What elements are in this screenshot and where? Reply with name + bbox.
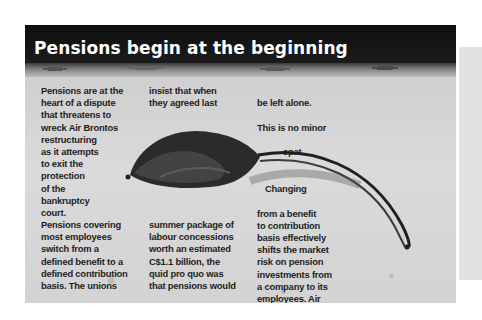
article-column-1-bottom: Pensions covering most employees switch … [41,219,145,292]
column-3-line: be left alone. [257,97,367,109]
article-column-3-bottom: Changing from a benefit to contribution … [257,171,367,303]
article-column-3-top: be left alone. This is no minor spat. [257,85,367,170]
article-title: Pensions begin at the beginning [34,38,348,58]
article-graphic: Pensions begin at the beginning Pensions… [25,25,456,303]
article-column-2-bottom: summer package of labour concessions wor… [149,219,253,292]
article-column-2-top: insist that when they agreed last [149,85,253,109]
paragraph-lead: Changing [257,183,367,195]
paragraph-body: from a benefit to contribution basis eff… [257,208,367,303]
adjacent-page-edge [459,47,482,280]
horizon-strip [25,63,456,77]
article-column-1-top: Pensions are at the heart of a dispute t… [41,85,145,219]
column-3-line: spat. [257,146,367,158]
column-3-line: This is no minor [257,122,367,134]
